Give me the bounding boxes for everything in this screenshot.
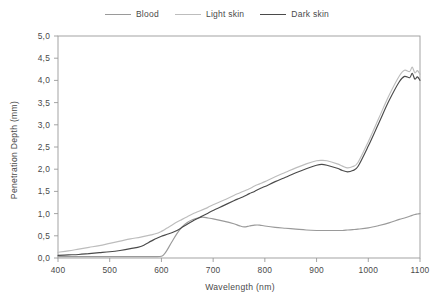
- y-tick-label: 4,0: [38, 75, 50, 85]
- x-tick-label: 800: [258, 265, 273, 275]
- y-tick-label: 2,0: [38, 164, 50, 174]
- x-tick-label: 1000: [359, 265, 379, 275]
- y-axis-ticks: 0,00,51,01,52,02,53,03,54,04,55,0: [38, 31, 58, 263]
- y-tick-label: 1,0: [38, 209, 50, 219]
- y-axis-title: Penetration Depth (mm): [9, 101, 19, 199]
- y-tick-label: 3,5: [38, 98, 50, 108]
- y-tick-label: 2,5: [38, 142, 50, 152]
- data-series-group: [58, 67, 420, 257]
- x-tick-label: 600: [154, 265, 169, 275]
- x-tick-label: 500: [102, 265, 117, 275]
- y-tick-label: 0,5: [38, 231, 50, 241]
- y-tick-label: 1,5: [38, 186, 50, 196]
- y-tick-label: 5,0: [38, 31, 50, 41]
- y-tick-label: 4,5: [38, 53, 50, 63]
- x-tick-label: 700: [206, 265, 221, 275]
- x-axis-ticks: 40050060070080090010001100: [51, 258, 430, 275]
- x-tick-label: 1100: [411, 265, 430, 275]
- y-tick-label: 3,0: [38, 120, 50, 130]
- x-tick-label: 400: [51, 265, 66, 275]
- y-tick-label: 0,0: [38, 253, 50, 263]
- series-line-light-skin: [58, 67, 420, 252]
- x-tick-label: 900: [309, 265, 324, 275]
- chart-figure: Blood Light skin Dark skin 0,00,51,01,52…: [0, 0, 434, 298]
- x-axis-title: Wavelength (nm): [205, 282, 275, 292]
- chart-plot-area: 0,00,51,01,52,02,53,03,54,04,55,0 400500…: [0, 0, 434, 298]
- series-line-blood: [58, 214, 420, 257]
